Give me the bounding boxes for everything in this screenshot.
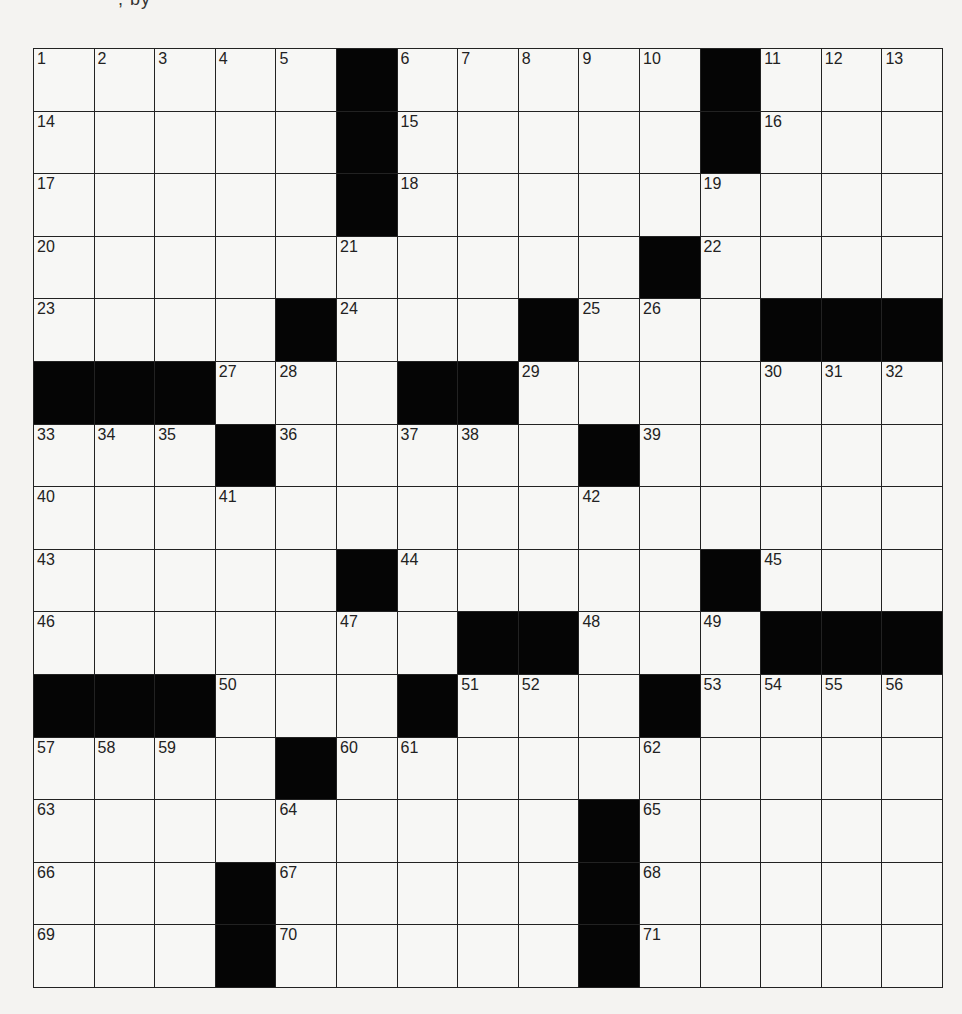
grid-cell[interactable]: 49 [701,612,761,674]
grid-cell[interactable] [216,612,276,674]
grid-cell[interactable]: 33 [34,425,94,487]
grid-cell[interactable] [882,863,942,925]
grid-cell[interactable] [519,800,579,862]
grid-cell[interactable] [579,362,639,424]
grid-cell[interactable] [701,487,761,549]
grid-cell[interactable] [882,800,942,862]
grid-cell[interactable] [882,237,942,299]
grid-cell[interactable]: 51 [458,675,518,737]
grid-cell[interactable] [155,800,215,862]
grid-cell[interactable]: 38 [458,425,518,487]
grid-cell[interactable]: 29 [519,362,579,424]
grid-cell[interactable] [579,738,639,800]
grid-cell[interactable] [216,112,276,174]
grid-cell[interactable] [155,237,215,299]
grid-cell[interactable] [761,425,821,487]
grid-cell[interactable] [519,112,579,174]
grid-cell[interactable] [155,863,215,925]
grid-cell[interactable] [95,174,155,236]
grid-cell[interactable] [761,237,821,299]
grid-cell[interactable]: 56 [882,675,942,737]
grid-cell[interactable] [701,362,761,424]
grid-cell[interactable]: 64 [276,800,336,862]
grid-cell[interactable] [822,863,882,925]
grid-cell[interactable]: 24 [337,299,397,361]
grid-cell[interactable] [701,299,761,361]
grid-cell[interactable]: 27 [216,362,276,424]
grid-cell[interactable]: 8 [519,49,579,111]
grid-cell[interactable]: 15 [398,112,458,174]
grid-cell[interactable] [822,738,882,800]
grid-cell[interactable] [822,425,882,487]
grid-cell[interactable]: 70 [276,925,336,987]
grid-cell[interactable] [458,487,518,549]
grid-cell[interactable] [398,487,458,549]
grid-cell[interactable] [458,925,518,987]
grid-cell[interactable] [882,550,942,612]
grid-cell[interactable]: 12 [822,49,882,111]
grid-cell[interactable] [640,612,700,674]
grid-cell[interactable] [95,487,155,549]
grid-cell[interactable]: 52 [519,675,579,737]
grid-cell[interactable] [155,925,215,987]
grid-cell[interactable] [216,174,276,236]
grid-cell[interactable]: 39 [640,425,700,487]
grid-cell[interactable]: 2 [95,49,155,111]
grid-cell[interactable] [640,550,700,612]
grid-cell[interactable]: 65 [640,800,700,862]
grid-cell[interactable] [216,800,276,862]
grid-cell[interactable]: 42 [579,487,639,549]
grid-cell[interactable] [579,112,639,174]
grid-cell[interactable]: 20 [34,237,94,299]
grid-cell[interactable] [337,362,397,424]
grid-cell[interactable] [216,738,276,800]
grid-cell[interactable] [458,112,518,174]
grid-cell[interactable] [458,550,518,612]
grid-cell[interactable]: 59 [155,738,215,800]
grid-cell[interactable] [276,112,336,174]
grid-cell[interactable] [458,800,518,862]
grid-cell[interactable] [337,425,397,487]
grid-cell[interactable] [155,299,215,361]
grid-cell[interactable] [95,550,155,612]
grid-cell[interactable] [519,925,579,987]
grid-cell[interactable] [155,174,215,236]
grid-cell[interactable]: 43 [34,550,94,612]
grid-cell[interactable] [95,299,155,361]
grid-cell[interactable]: 60 [337,738,397,800]
grid-cell[interactable] [701,863,761,925]
grid-cell[interactable] [398,237,458,299]
grid-cell[interactable] [519,487,579,549]
grid-cell[interactable] [95,237,155,299]
grid-cell[interactable]: 10 [640,49,700,111]
grid-cell[interactable] [579,550,639,612]
grid-cell[interactable]: 61 [398,738,458,800]
grid-cell[interactable]: 7 [458,49,518,111]
grid-cell[interactable]: 68 [640,863,700,925]
grid-cell[interactable]: 17 [34,174,94,236]
grid-cell[interactable]: 54 [761,675,821,737]
grid-cell[interactable] [276,612,336,674]
grid-cell[interactable] [640,112,700,174]
grid-cell[interactable] [882,738,942,800]
grid-cell[interactable]: 32 [882,362,942,424]
grid-cell[interactable] [276,550,336,612]
grid-cell[interactable] [95,612,155,674]
grid-cell[interactable] [822,925,882,987]
grid-cell[interactable] [701,738,761,800]
grid-cell[interactable]: 21 [337,237,397,299]
grid-cell[interactable]: 66 [34,863,94,925]
grid-cell[interactable] [216,299,276,361]
grid-cell[interactable] [155,612,215,674]
grid-cell[interactable]: 67 [276,863,336,925]
grid-cell[interactable] [398,925,458,987]
grid-cell[interactable]: 26 [640,299,700,361]
grid-cell[interactable] [519,425,579,487]
grid-cell[interactable] [337,863,397,925]
grid-cell[interactable] [701,800,761,862]
grid-cell[interactable] [95,112,155,174]
grid-cell[interactable] [822,800,882,862]
grid-cell[interactable] [458,738,518,800]
grid-cell[interactable] [458,174,518,236]
grid-cell[interactable] [155,487,215,549]
